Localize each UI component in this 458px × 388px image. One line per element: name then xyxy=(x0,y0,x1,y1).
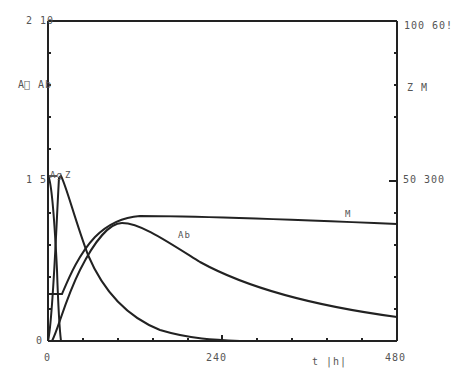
curve-label-ag: Ag xyxy=(50,170,63,180)
chart-plot xyxy=(0,0,458,388)
axes-frame xyxy=(48,21,397,341)
x-tick-240-label: 240 xyxy=(206,352,227,363)
x-tick-480-label: 480 xyxy=(385,352,406,363)
right-tick-top-label: 100 60! xyxy=(404,20,453,31)
curve-label-m: M xyxy=(345,209,351,219)
right-axis-ticks xyxy=(389,53,397,309)
curve-label-z: Z xyxy=(65,170,71,180)
curve-m xyxy=(48,216,397,294)
curve-ab xyxy=(52,223,397,341)
x-axis-title: t |h| xyxy=(312,356,347,367)
right-axis-names: Z M xyxy=(407,82,428,93)
curve-z xyxy=(48,176,240,341)
x-tick-0-label: 0 xyxy=(44,352,51,363)
left-tick-top-label: 2 10 xyxy=(26,15,54,26)
left-tick-zero-label: 0 xyxy=(36,335,43,346)
right-tick-mid-label: 50 300 xyxy=(403,174,445,185)
left-axis-names: A⃞ Ab xyxy=(18,79,52,90)
left-tick-mid-label: 1 5 xyxy=(26,174,47,185)
curve-label-ab: Ab xyxy=(178,230,191,240)
